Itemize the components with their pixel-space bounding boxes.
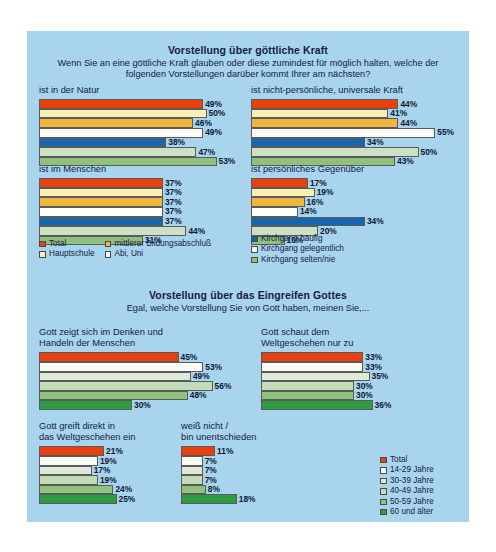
bar-value-label: 47% <box>198 147 215 157</box>
infographic-poster: Vorstellung über göttliche Kraft Wenn Si… <box>27 31 469 522</box>
bar-value-label: 11% <box>217 446 233 456</box>
bar-row: 30% <box>39 400 244 410</box>
bar-value-label: 37% <box>165 178 182 188</box>
chart-title: ist persönliches Gegenüber <box>251 164 458 175</box>
bar <box>39 207 163 217</box>
bar-value-label: 30% <box>356 381 373 391</box>
bar-row: 14% <box>251 207 458 217</box>
chart-panel-ist-nicht-persoenliche-universale-kraft: ist nicht-persönliche, universale Kraft … <box>251 85 458 166</box>
bar-group: 37%37%37%37%37%44%31% <box>39 178 244 245</box>
bar-value-label: 49% <box>205 99 222 109</box>
bar-value-label: 7% <box>205 465 217 475</box>
bar-value-label: 44% <box>188 226 205 236</box>
bar-value-label: 8% <box>208 484 220 494</box>
bar-row: 34% <box>251 217 458 227</box>
legend-label: Abi, Uni <box>115 249 144 259</box>
education-legend-item: Hauptschule <box>39 249 95 259</box>
bar-row: 47% <box>39 147 244 157</box>
bar-group: 45%53%49%56%48%30% <box>39 352 244 410</box>
bar-group: 49%50%46%49%38%47%53% <box>39 99 244 166</box>
legend-column-education-b: mittlerer BildungsabschlußAbi, Uni <box>105 239 211 260</box>
bar-value-label: 34% <box>367 137 384 147</box>
bar <box>39 118 193 128</box>
age-legend-item: 50-59 Jahre <box>380 497 434 507</box>
section-2-title: Vorstellung über das Eingreifen Gottes <box>27 289 469 301</box>
bar <box>39 109 207 119</box>
bar-value-label: 37% <box>165 187 182 197</box>
bar <box>181 475 203 485</box>
bar-value-label: 50% <box>209 108 226 118</box>
legend-label: 40-49 Jahre <box>390 486 434 496</box>
bar-row: 50% <box>251 147 458 157</box>
bar <box>251 138 365 148</box>
bar <box>251 188 315 198</box>
legend-swatch-icon <box>39 241 46 248</box>
education-legend-item: mittlerer Bildungsabschluß <box>105 239 211 249</box>
bar <box>39 352 179 362</box>
bar-row: 37% <box>39 197 244 207</box>
bar <box>261 381 354 391</box>
legend-swatch-icon <box>380 478 387 485</box>
legend-label: 50-59 Jahre <box>390 497 434 507</box>
legend-label: Kirchgang häufig <box>261 234 322 244</box>
bar-value-label: 55% <box>437 127 454 137</box>
bar <box>39 138 166 148</box>
legend-label: Total <box>390 455 407 465</box>
bar <box>251 118 398 128</box>
bar <box>39 391 188 401</box>
bar-value-label: 45% <box>181 352 198 362</box>
bar-row: 41% <box>251 109 458 119</box>
legend-swatch-icon <box>380 509 387 516</box>
bar-value-label: 34% <box>367 216 384 226</box>
age-legend-item: 30-39 Jahre <box>380 476 434 486</box>
legend-swatch-icon <box>251 236 258 243</box>
bar-value-label: 38% <box>168 137 185 147</box>
bar-row: 44% <box>251 118 458 128</box>
bar <box>39 400 132 410</box>
bar <box>39 485 113 495</box>
bar-row: 19% <box>251 188 458 198</box>
bar-value-label: 46% <box>195 118 212 128</box>
bar-value-label: 56% <box>215 381 232 391</box>
bar-value-label: 18% <box>239 494 256 504</box>
bar-value-label: 33% <box>365 352 382 362</box>
legend-swatch-icon <box>39 251 46 258</box>
bar-value-label: 44% <box>400 118 417 128</box>
legend-swatch-icon <box>380 499 387 506</box>
bar-value-label: 16% <box>307 197 324 207</box>
bar-value-label: 30% <box>134 400 151 410</box>
bar-value-label: 7% <box>205 456 217 466</box>
legend-column-church: Kirchgang häufigKirchgang gelegentlichKi… <box>251 234 344 265</box>
bar-value-label: 53% <box>205 362 222 372</box>
bar <box>261 362 363 372</box>
bar-row: 37% <box>39 188 244 198</box>
church-legend-item: Kirchgang selten/nie <box>251 255 344 265</box>
bar <box>261 400 373 410</box>
bar-value-label: 19% <box>100 475 117 485</box>
bar <box>39 456 98 466</box>
bar-group: 44%41%44%55%34%50%43% <box>251 99 458 166</box>
bar-value-label: 25% <box>119 494 136 504</box>
bar <box>39 466 92 476</box>
bar <box>261 391 354 401</box>
bar-row: 8% <box>181 485 361 495</box>
legend-section-1-church: Kirchgang häufigKirchgang gelegentlichKi… <box>251 234 354 265</box>
bar-row: 37% <box>39 217 244 227</box>
section-eingreifen-gottes: Vorstellung über das Eingreifen Gottes E… <box>27 289 469 314</box>
age-legend-item: Total <box>380 455 434 465</box>
bar <box>39 147 196 157</box>
bar-value-label: 37% <box>165 206 182 216</box>
legend-section-2: Total14-29 Jahre30-39 Jahre40-49 Jahre50… <box>380 455 444 517</box>
section-1-subtitle: Wenn Sie an eine göttliche Kraft glauben… <box>27 58 469 80</box>
bar-value-label: 41% <box>390 108 407 118</box>
bar <box>39 226 186 236</box>
bar-row: 50% <box>39 109 244 119</box>
legend-swatch-icon <box>380 488 387 495</box>
bar-value-label: 37% <box>165 216 182 226</box>
bar-row: 30% <box>261 391 461 401</box>
chart-title: ist im Menschen <box>39 164 244 175</box>
education-legend-item: Abi, Uni <box>105 249 211 259</box>
bar-row: 49% <box>39 372 244 382</box>
bar-row: 18% <box>181 494 361 504</box>
bar <box>39 217 163 227</box>
